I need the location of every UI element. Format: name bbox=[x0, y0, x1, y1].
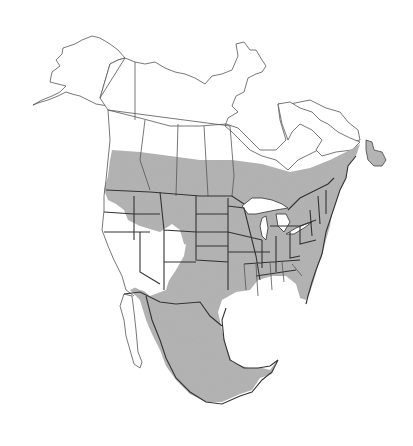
baja-california-outline bbox=[120, 294, 142, 368]
range-map bbox=[0, 0, 413, 446]
north-america-map bbox=[0, 0, 413, 446]
newfoundland bbox=[366, 140, 386, 166]
